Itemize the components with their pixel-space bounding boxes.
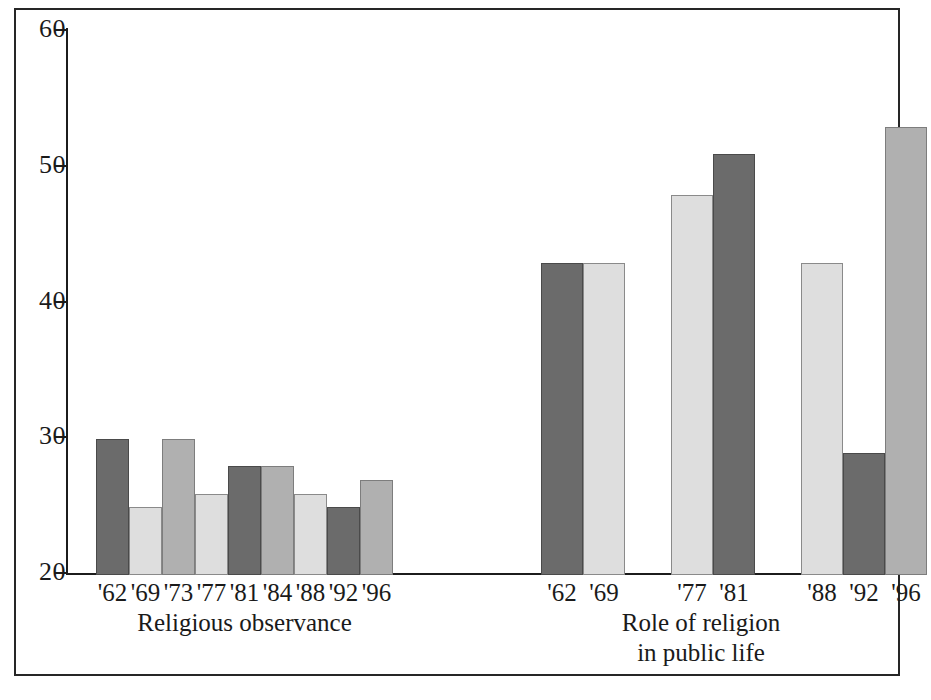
group-caption: Religious observance bbox=[96, 608, 393, 638]
bar bbox=[843, 453, 885, 575]
bar bbox=[671, 195, 713, 575]
bar bbox=[541, 263, 583, 575]
bars-layer bbox=[0, 0, 918, 575]
bar bbox=[162, 439, 195, 575]
group-caption: Role of religionin public life bbox=[541, 608, 861, 668]
bar bbox=[294, 494, 327, 575]
group-caption-line: Religious observance bbox=[96, 608, 393, 638]
bar bbox=[195, 494, 228, 575]
x-tick-label: '69 bbox=[579, 578, 629, 608]
group-caption-line: in public life bbox=[541, 638, 861, 668]
bar bbox=[228, 466, 261, 575]
bar bbox=[96, 439, 129, 575]
x-tick-label: '96 bbox=[356, 578, 397, 608]
bar bbox=[261, 466, 294, 575]
x-tick-label: '96 bbox=[881, 578, 931, 608]
bar bbox=[801, 263, 843, 575]
group-caption-line: Role of religion bbox=[541, 608, 861, 638]
bar bbox=[713, 154, 755, 575]
bar bbox=[360, 480, 393, 575]
bar bbox=[885, 127, 927, 575]
bar bbox=[583, 263, 625, 575]
bar bbox=[327, 507, 360, 575]
x-tick-label: '81 bbox=[709, 578, 759, 608]
bar bbox=[129, 507, 162, 575]
